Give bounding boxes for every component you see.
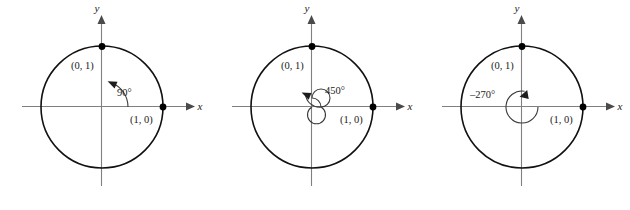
point-marker-one-zero — [160, 104, 167, 111]
panel-450: x y (1, 0) (0, 1) 450° — [232, 2, 413, 186]
point-marker-one-zero — [370, 104, 377, 111]
panel-90: x y (1, 0) (0, 1) 90° — [22, 2, 203, 186]
point-label-one-zero: (1, 0) — [550, 114, 573, 126]
y-axis-label: y — [514, 2, 520, 14]
y-axis-label: y — [304, 2, 310, 14]
x-axis — [22, 103, 195, 111]
angle-label: –270° — [469, 89, 495, 100]
angle-label: 450° — [325, 85, 345, 96]
point-marker-zero-one — [519, 43, 526, 50]
y-axis — [98, 15, 106, 186]
point-marker-one-zero — [580, 104, 587, 111]
point-marker-zero-one — [99, 43, 106, 50]
x-axis — [442, 103, 615, 111]
y-axis — [518, 15, 526, 186]
point-marker-zero-one — [309, 43, 316, 50]
angle-label: 90° — [117, 87, 132, 98]
y-axis-label: y — [94, 2, 100, 14]
point-label-zero-one: (0, 1) — [491, 60, 514, 72]
x-axis — [232, 103, 405, 111]
x-axis-label: x — [617, 100, 623, 112]
x-axis-label: x — [407, 100, 413, 112]
panel-minus-270: x y (1, 0) (0, 1) –270° — [442, 2, 623, 186]
y-axis — [308, 15, 316, 186]
point-label-zero-one: (0, 1) — [281, 60, 304, 72]
point-label-one-zero: (1, 0) — [130, 114, 153, 126]
point-label-zero-one: (0, 1) — [71, 60, 94, 72]
diagram-canvas: x y (1, 0) (0, 1) 90° x — [0, 0, 630, 210]
point-label-one-zero: (1, 0) — [340, 114, 363, 126]
x-axis-label: x — [197, 100, 203, 112]
angle-diagram-figure: x y (1, 0) (0, 1) 90° x — [0, 0, 630, 210]
